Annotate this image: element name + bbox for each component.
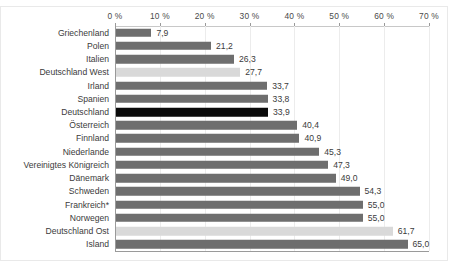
bar (116, 214, 363, 223)
bar (116, 81, 267, 90)
bar-value-label: 47,3 (333, 161, 350, 170)
chart-row: Finnland40,9 (115, 132, 429, 145)
bar (116, 161, 328, 170)
chart-row: Frankreich*55,0 (115, 198, 429, 211)
bar-value-label: 55,0 (368, 200, 385, 209)
bar (116, 240, 408, 249)
gridline (429, 26, 430, 251)
bar (116, 200, 363, 209)
chart-row: Österreich40,4 (115, 119, 429, 132)
bar-value-label: 33,7 (272, 81, 289, 90)
category-label: Niederlande (63, 147, 109, 156)
bar-value-label: 26,3 (239, 55, 256, 64)
bar (116, 227, 393, 236)
bar (116, 187, 360, 196)
chart-row: Deutschland33,9 (115, 105, 429, 118)
category-label: Norwegen (70, 214, 109, 223)
category-label: Deutschland (61, 108, 109, 117)
category-label: Frankreich* (65, 200, 109, 209)
x-axis-tick-label: 0 % (107, 11, 122, 21)
chart-row: Island65,0 (115, 238, 429, 251)
chart-row: Griechenland7,9 (115, 26, 429, 39)
chart-row: Norwegen55,0 (115, 211, 429, 224)
category-label: Deutschland Ost (45, 227, 109, 236)
bar (116, 108, 268, 117)
chart-row: Schweden54,3 (115, 185, 429, 198)
bar-value-label: 21,2 (216, 42, 233, 51)
category-label: Deutschland West (39, 68, 109, 77)
bar-value-label: 55,0 (368, 214, 385, 223)
bar (116, 174, 336, 183)
bar-value-label: 33,9 (273, 108, 290, 117)
category-label: Polen (87, 42, 109, 51)
x-axis-tick-label: 40 % (284, 11, 304, 21)
bar-value-label: 33,8 (273, 94, 290, 103)
x-axis-tick-label: 10 % (150, 11, 170, 21)
chart-row: Italien26,3 (115, 52, 429, 65)
category-label: Schweden (69, 187, 109, 196)
bar (116, 42, 211, 51)
bar (116, 147, 319, 156)
bar-value-label: 40,9 (304, 134, 321, 143)
x-axis-tick-label: 70 % (419, 11, 439, 21)
chart-row: Vereinigtes Königreich47,3 (115, 158, 429, 171)
category-label: Spanien (77, 94, 109, 103)
bar-value-label: 65,0 (413, 240, 430, 249)
bar-value-label: 40,4 (302, 121, 319, 130)
x-axis-tick-label: 60 % (374, 11, 394, 21)
x-axis-tick-label: 50 % (329, 11, 349, 21)
bar (116, 95, 268, 104)
x-axis-tick-label: 30 % (240, 11, 260, 21)
category-label: Griechenland (58, 28, 109, 37)
plot-area: Griechenland7,9Polen21,2Italien26,3Deuts… (115, 26, 429, 251)
x-axis-tick-label: 20 % (195, 11, 215, 21)
bar-value-label: 27,7 (245, 68, 262, 77)
chart-row: Niederlande45,3 (115, 145, 429, 158)
bar-value-label: 7,9 (156, 28, 168, 37)
bar (116, 134, 299, 143)
bar (116, 68, 240, 77)
chart-row: Polen21,2 (115, 39, 429, 52)
category-label: Irland (88, 81, 110, 90)
bar-value-label: 45,3 (324, 147, 341, 156)
category-label: Vereinigtes Königreich (23, 161, 109, 170)
chart-row: Deutschland West27,7 (115, 66, 429, 79)
chart-row: Deutschland Ost61,7 (115, 225, 429, 238)
bar (116, 28, 151, 37)
x-axis-tickmark (429, 23, 430, 26)
category-label: Italien (86, 55, 109, 64)
chart-row: Spanien33,8 (115, 92, 429, 105)
x-axis-tick-labels: 0 %10 %20 %30 %40 %50 %60 %70 % (0, 11, 449, 25)
bar-chart: 0 %10 %20 %30 %40 %50 %60 %70 % Griechen… (0, 0, 449, 268)
bar-value-label: 61,7 (398, 227, 415, 236)
chart-row: Irland33,7 (115, 79, 429, 92)
x-axis-line (115, 251, 429, 252)
bar (116, 55, 234, 64)
category-label: Dänemark (69, 174, 109, 183)
bar-value-label: 49,0 (341, 174, 358, 183)
chart-row: Dänemark49,0 (115, 172, 429, 185)
category-label: Finnland (76, 134, 109, 143)
bar (116, 121, 297, 130)
bar-value-label: 54,3 (365, 187, 382, 196)
category-label: Österreich (69, 121, 109, 130)
category-label: Island (86, 240, 109, 249)
